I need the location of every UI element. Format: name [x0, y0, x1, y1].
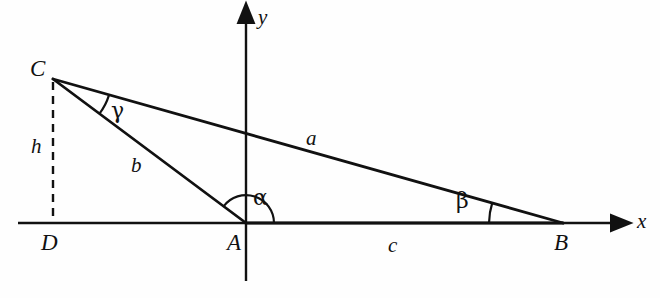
vertex-label-D: D — [41, 231, 58, 254]
vertex-label-C: C — [30, 57, 45, 80]
side-label-c: c — [388, 235, 397, 256]
side-b-line — [53, 79, 246, 223]
side-label-a: a — [306, 128, 317, 149]
angle-gamma-arc — [100, 95, 109, 113]
angle-label-beta: β — [456, 190, 469, 212]
vertex-label-B: B — [554, 231, 568, 254]
side-label-b: b — [131, 155, 142, 176]
angle-label-gamma: γ — [111, 100, 124, 122]
side-a-line — [53, 79, 563, 223]
vertex-label-A: A — [227, 231, 241, 254]
geometry-figure: C A B D a b c h α β γ x y — [0, 0, 660, 298]
angle-beta-arc — [489, 203, 492, 223]
side-label-h: h — [31, 136, 42, 157]
x-axis-label: x — [637, 211, 646, 232]
angle-label-alpha: α — [253, 187, 268, 209]
y-axis-label: y — [258, 7, 267, 28]
